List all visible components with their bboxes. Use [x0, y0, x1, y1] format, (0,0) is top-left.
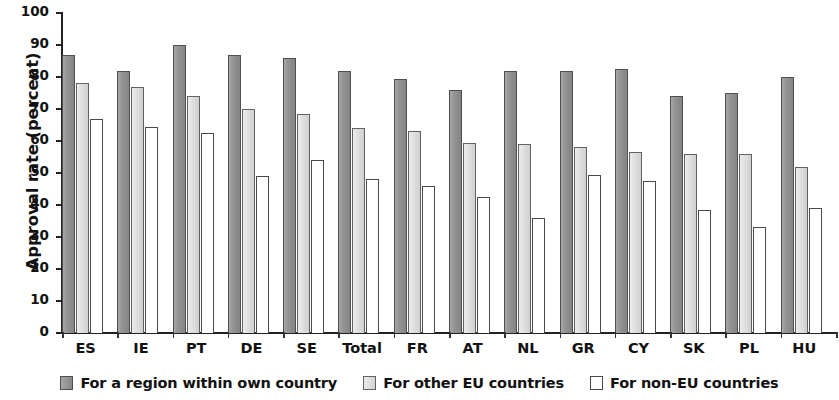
legend-label: For a region within own country	[80, 375, 337, 391]
y-tick-label: 50	[0, 165, 49, 179]
bar	[588, 175, 601, 333]
bar-chart: Approval rate (percent) 0102030405060708…	[0, 0, 839, 400]
bar	[62, 55, 75, 333]
bar	[117, 71, 130, 333]
x-axis-label: SE	[275, 337, 338, 359]
y-tick-label: 40	[0, 197, 49, 211]
x-axis-label: PT	[165, 337, 228, 359]
legend-label: For non-EU countries	[610, 375, 779, 391]
bar-group	[504, 12, 559, 333]
bar	[338, 71, 351, 333]
y-tick-label: 10	[0, 293, 49, 307]
bar-group	[615, 12, 670, 333]
bar	[352, 128, 365, 333]
legend-swatch-icon	[363, 376, 376, 390]
bar	[201, 133, 214, 333]
bar	[408, 131, 421, 333]
bar	[781, 77, 794, 333]
y-tick-label: 70	[0, 101, 49, 115]
bar	[422, 186, 435, 333]
bar	[574, 147, 587, 333]
x-tick-mark	[836, 332, 838, 338]
x-axis-label: DE	[220, 337, 283, 359]
bar	[753, 227, 766, 333]
bar-group	[283, 12, 338, 333]
plot-area: 0102030405060708090100	[61, 12, 836, 332]
y-tick-label: 90	[0, 37, 49, 51]
bar	[532, 218, 545, 333]
bar-group	[173, 12, 228, 333]
x-axis-label: AT	[441, 337, 504, 359]
y-tick-label: 60	[0, 133, 49, 147]
bar	[739, 154, 752, 333]
x-axis-labels: ESIEPTDESETotalFRATNLGRCYSKPLHU	[62, 337, 836, 359]
x-axis-label: CY	[607, 337, 670, 359]
legend-item: For other EU countries	[363, 375, 564, 391]
bar-group	[338, 12, 393, 333]
bar-group	[117, 12, 172, 333]
bar-group	[62, 12, 117, 333]
bar	[256, 176, 269, 333]
legend-swatch-icon	[590, 376, 603, 390]
bar	[629, 152, 642, 333]
bar-groups	[62, 12, 836, 333]
bar	[795, 167, 808, 333]
bar	[477, 197, 490, 333]
bar-group	[394, 12, 449, 333]
y-tick-label: 20	[0, 261, 49, 275]
bar	[670, 96, 683, 333]
legend-item: For non-EU countries	[590, 375, 779, 391]
y-tick-label: 80	[0, 69, 49, 83]
y-tick-mark	[56, 236, 61, 238]
bar	[311, 160, 324, 333]
bar	[366, 179, 379, 333]
bar	[449, 90, 462, 333]
bar	[283, 58, 296, 333]
bar	[76, 83, 89, 333]
x-axis-label: PL	[717, 337, 780, 359]
bar	[187, 96, 200, 333]
bar-group	[560, 12, 615, 333]
bar	[643, 181, 656, 333]
y-tick-label: 30	[0, 229, 49, 243]
bar	[698, 210, 711, 333]
x-axis-label: FR	[386, 337, 449, 359]
bar	[145, 127, 158, 333]
y-tick-mark	[56, 300, 61, 302]
legend-label: For other EU countries	[383, 375, 564, 391]
x-axis-label: ES	[54, 337, 117, 359]
x-axis-label: Total	[330, 337, 393, 359]
bar	[297, 114, 310, 333]
y-tick-mark	[56, 172, 61, 174]
bar-group	[725, 12, 780, 333]
bar	[725, 93, 738, 333]
bar	[90, 119, 103, 333]
x-axis-label: GR	[552, 337, 615, 359]
legend-item: For a region within own country	[60, 375, 337, 391]
x-axis-label: SK	[662, 337, 725, 359]
bar	[809, 208, 822, 333]
bar	[560, 71, 573, 333]
y-tick-mark	[56, 108, 61, 110]
bar	[615, 69, 628, 333]
y-tick-label: 100	[0, 5, 49, 19]
y-tick-mark	[56, 76, 61, 78]
bar-group	[781, 12, 836, 333]
bar	[684, 154, 697, 333]
bar-group	[228, 12, 283, 333]
bar	[518, 144, 531, 333]
x-axis-label: IE	[109, 337, 172, 359]
y-tick-mark	[56, 204, 61, 206]
bar	[131, 87, 144, 333]
bar	[463, 143, 476, 333]
bar	[242, 109, 255, 333]
chart-legend: For a region within own countryFor other…	[0, 370, 839, 396]
x-axis-label: HU	[773, 337, 836, 359]
y-tick-mark	[56, 268, 61, 270]
bar	[504, 71, 517, 333]
bar	[228, 55, 241, 333]
y-tick-mark	[56, 140, 61, 142]
y-tick-mark	[56, 44, 61, 46]
y-tick-label: 0	[0, 325, 49, 339]
bar-group	[670, 12, 725, 333]
